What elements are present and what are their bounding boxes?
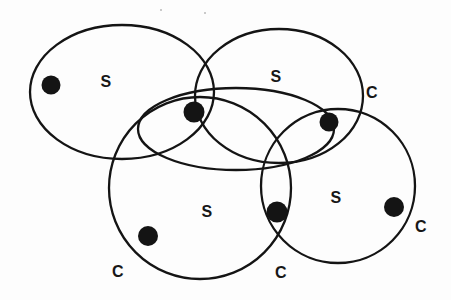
region-label-s-3: S xyxy=(202,204,213,220)
scan-speck-1 xyxy=(160,9,162,11)
region-label-s-1: S xyxy=(101,74,112,90)
region-label-c-4: C xyxy=(415,219,427,235)
region-label-c-2: C xyxy=(112,264,124,280)
top-left-ellipse-outline xyxy=(30,25,214,159)
venn-diagram-canvas xyxy=(0,0,451,300)
point-dot-5 xyxy=(267,202,288,223)
point-dot-3 xyxy=(320,113,339,132)
scan-speck-2 xyxy=(204,12,206,14)
region-label-s-4: S xyxy=(331,190,342,206)
point-dot-4 xyxy=(138,226,158,246)
region-label-c-3: C xyxy=(275,265,287,281)
middle-ellipse-outline xyxy=(138,88,334,170)
point-dot-1 xyxy=(42,76,61,95)
venn-diagram-figure: S S S S C C C C xyxy=(0,0,451,300)
bottom-right-circle-outline xyxy=(261,109,415,263)
bottom-left-circle-outline xyxy=(109,97,291,279)
point-dot-6 xyxy=(384,197,404,217)
set-outlines-group xyxy=(30,25,415,279)
region-label-c-1: C xyxy=(366,85,378,101)
point-dot-2 xyxy=(184,102,205,123)
region-label-s-2: S xyxy=(271,69,282,85)
